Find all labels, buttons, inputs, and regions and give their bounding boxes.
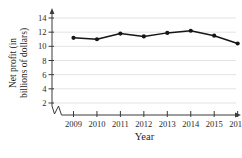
data-point	[71, 36, 75, 40]
axis-break	[52, 106, 62, 115]
data-point	[165, 31, 169, 35]
net-profit-line-chart: 2468101214200920102011201220132014201520…	[0, 0, 242, 158]
y-tick-label: 10	[38, 41, 47, 51]
x-tick-label: 2012	[135, 119, 152, 129]
data-point	[142, 34, 146, 38]
y-axis-label: Net profit (in billions of dollars)	[8, 8, 32, 118]
data-point	[236, 41, 240, 45]
x-tick-label: 2010	[88, 119, 105, 129]
data-point	[212, 34, 216, 38]
data-point	[189, 29, 193, 33]
y-tick-label: 6	[42, 70, 46, 80]
y-tick-label: 12	[38, 27, 47, 37]
data-point	[118, 31, 122, 35]
y-tick-label: 2	[42, 98, 46, 108]
data-point	[95, 37, 99, 41]
x-tick-label: 2013	[159, 119, 176, 129]
y-tick-label: 14	[38, 13, 47, 23]
x-tick-label: 2014	[182, 119, 200, 129]
y-tick-label: 4	[42, 84, 47, 94]
x-tick-label: 2015	[206, 119, 223, 129]
x-tick-label: 2016	[229, 119, 242, 129]
y-axis-arrow	[50, 8, 55, 14]
y-tick-label: 8	[42, 56, 46, 66]
x-axis-label: Year	[52, 131, 237, 142]
x-tick-label: 2009	[65, 119, 82, 129]
x-tick-label: 2011	[112, 119, 129, 129]
